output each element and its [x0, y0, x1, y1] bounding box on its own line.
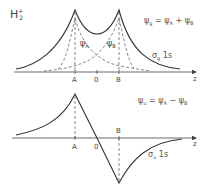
eq-b-sub: B	[190, 20, 193, 26]
eq-op: +	[173, 16, 185, 25]
psi-a-curve	[58, 18, 150, 71]
bottom-axis-label-origin: 0	[94, 144, 98, 151]
bottom-equation: ψu = ψA − ψB	[138, 97, 187, 106]
psi-b-label: ψB	[107, 40, 116, 49]
psi-b-curve	[44, 18, 134, 71]
bottom-axis-label-b: B	[116, 128, 121, 135]
title-sub: 2	[19, 14, 23, 21]
top-axis-label-a: A	[72, 77, 77, 84]
psi-u-curve	[16, 94, 182, 183]
top-axis-label-b: B	[116, 77, 121, 84]
eq-op: −	[167, 96, 179, 105]
psi-b-sub: B	[112, 43, 115, 49]
sigma-g-rest: 1s	[160, 51, 172, 60]
top-axis-label-origin: 0	[94, 77, 98, 84]
eq-sign: =	[146, 96, 158, 105]
top-axis-label-z: z	[193, 76, 197, 83]
psi-a-sub: A	[85, 43, 88, 49]
title-sup: +	[18, 7, 23, 14]
eq-sign: =	[152, 16, 164, 25]
bottom-axis-label-a: A	[72, 144, 77, 151]
sigma-g-label: σg 1s	[152, 52, 172, 61]
sigma-u-rest: 1s	[156, 150, 168, 159]
eq-b-sub: B	[184, 100, 187, 106]
bottom-axis-label-z: z	[193, 141, 197, 148]
sigma-u-label: σu 1s	[148, 151, 168, 160]
psi-a-label: ψA	[80, 40, 89, 49]
molecule-title: H+2	[10, 8, 23, 21]
top-equation: ψg = ψA + ψB	[144, 17, 193, 26]
